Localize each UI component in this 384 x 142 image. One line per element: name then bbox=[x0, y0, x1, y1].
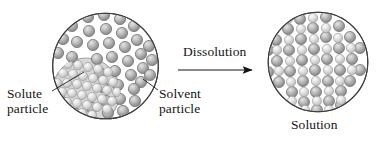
solute-particle-label: Solute particle bbox=[7, 87, 48, 116]
dissolution-label: Dissolution bbox=[183, 45, 246, 60]
left-beaker bbox=[47, 9, 158, 126]
solute-label-line2: particle bbox=[7, 102, 48, 117]
solvent-particle-label: Solvent particle bbox=[159, 87, 201, 116]
solvent-label-line2: particle bbox=[159, 102, 201, 117]
right-beaker bbox=[263, 12, 368, 116]
solute-label-line1: Solute bbox=[7, 86, 42, 101]
solvent-label-line1: Solvent bbox=[159, 86, 201, 101]
dissolution-diagram: Solute particle Solvent particle Dissolu… bbox=[0, 0, 384, 142]
solution-label: Solution bbox=[291, 118, 338, 133]
